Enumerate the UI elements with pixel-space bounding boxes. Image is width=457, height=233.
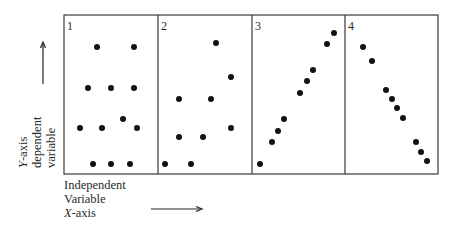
panel-1-point [131, 85, 137, 91]
panel-3-point [281, 116, 287, 122]
panel-1-point [131, 44, 137, 50]
outer-frame [64, 15, 438, 174]
panel-1-point [120, 116, 126, 122]
panel-1-point [108, 161, 114, 167]
panel-4-point [413, 139, 419, 145]
y-axis-label-line1: Y-axis [16, 137, 30, 168]
panel-2-point [228, 74, 234, 80]
x-axis-label-line2: Variable [64, 192, 106, 206]
panel-2-point [208, 96, 214, 102]
x-axis-label-line1: Independent [64, 178, 126, 192]
panel-1-point [90, 161, 96, 167]
panel-2-point [188, 161, 194, 167]
scatter-patterns-figure: 1 2 3 4 Y-axis dependent variable Indepe… [0, 0, 457, 233]
panel-3-point [269, 139, 275, 145]
panel-1-point [134, 125, 140, 131]
panel-frames [64, 15, 438, 174]
panel-4-label: 4 [348, 19, 354, 33]
panel-4-point [418, 149, 424, 155]
panel-3-point [257, 161, 263, 167]
panel-2-label: 2 [161, 19, 167, 33]
panel-2-point [176, 134, 182, 140]
panel-4-point [394, 105, 400, 111]
panel-3-point [310, 67, 316, 73]
panel-1-label: 1 [67, 19, 73, 33]
data-points [77, 30, 430, 167]
panel-1-point [108, 85, 114, 91]
panel-3-label: 3 [255, 19, 261, 33]
panel-1-point [94, 44, 100, 50]
panel-3-point [304, 78, 310, 84]
panel-2-point [162, 161, 168, 167]
panel-2-point [200, 134, 206, 140]
panel-2-point [176, 96, 182, 102]
panel-3-point [324, 41, 330, 47]
panel-1-point [127, 161, 133, 167]
x-axis-label: Independent Variable X-axis [63, 178, 126, 220]
panel-4-point [383, 87, 389, 93]
y-axis-label-line2: dependent [30, 116, 44, 168]
x-axis-arrow-icon [151, 207, 202, 212]
panel-1-point [85, 85, 91, 91]
panel-3-point [275, 128, 281, 134]
panel-4-point [369, 58, 375, 64]
panel-3-point [331, 30, 337, 36]
panel-2-point [213, 40, 219, 46]
panel-4-point [360, 44, 366, 50]
panel-2-point [228, 125, 234, 131]
y-axis-arrow-icon [41, 42, 46, 84]
panel-4-point [424, 158, 430, 164]
y-axis-label-line3: variable [44, 127, 58, 168]
panel-4-point [389, 96, 395, 102]
panel-4-point [400, 115, 406, 121]
panel-3-point [297, 90, 303, 96]
panel-1-point [99, 125, 105, 131]
x-axis-label-line3: X-axis [63, 206, 96, 220]
y-axis-label: Y-axis dependent variable [16, 116, 58, 168]
panel-1-point [77, 125, 83, 131]
